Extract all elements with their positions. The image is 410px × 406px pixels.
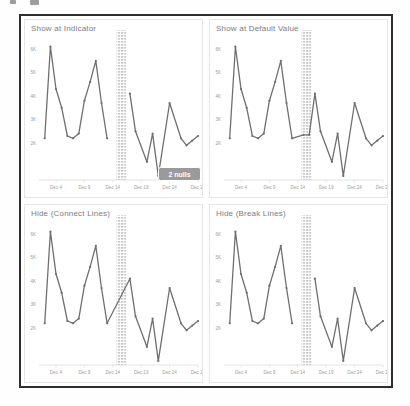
data-point: [100, 102, 102, 104]
data-point: [274, 266, 276, 268]
chart-show-at-indicator[interactable]: Dec 4Dec 9Dec 14Dec 19Dec 24Dec 296K5K4K…: [25, 20, 202, 197]
data-point: [234, 231, 236, 233]
data-point: [106, 137, 108, 139]
y-tick-label: 4K: [30, 94, 37, 99]
chart-hide-break-lines[interactable]: Dec 4Dec 9Dec 14Dec 19Dec 24Dec 296K5K4K…: [210, 205, 387, 382]
x-tick-label: Dec 14: [106, 185, 121, 190]
x-tick-label: Dec 14: [291, 185, 306, 190]
series-line: [130, 94, 198, 176]
data-point: [263, 133, 265, 135]
data-point: [169, 102, 171, 104]
data-point: [169, 287, 171, 289]
x-tick-label: Dec 4: [50, 370, 62, 375]
data-point: [280, 245, 282, 247]
data-point: [186, 329, 188, 331]
data-point: [354, 287, 356, 289]
y-tick-label: 2K: [30, 141, 37, 146]
panel-title: Show at Indicator: [31, 24, 96, 33]
y-tick-label: 6K: [30, 47, 37, 52]
data-point: [382, 320, 384, 322]
x-tick-label: Dec 9: [263, 185, 275, 190]
null-region-band: [117, 30, 127, 180]
x-tick-label: Dec 29: [376, 370, 387, 375]
chart-hide-connect-lines[interactable]: Dec 4Dec 9Dec 14Dec 19Dec 24Dec 296K5K4K…: [25, 205, 202, 382]
page-text-fragment: [30, 0, 39, 5]
data-point: [354, 102, 356, 104]
data-point: [251, 320, 253, 322]
y-tick-label: 2K: [215, 326, 222, 331]
x-tick-label: Dec 19: [319, 370, 334, 375]
data-point: [72, 137, 74, 139]
data-point: [302, 134, 304, 136]
data-point: [157, 360, 159, 362]
y-tick-label: 5K: [30, 70, 37, 75]
data-point: [376, 140, 378, 142]
chart-show-at-default-value[interactable]: Dec 4Dec 9Dec 14Dec 19Dec 24Dec 296K5K4K…: [210, 20, 387, 197]
data-point: [186, 144, 188, 146]
data-point: [61, 292, 63, 294]
data-point: [234, 46, 236, 48]
data-point: [89, 266, 91, 268]
data-point: [268, 100, 270, 102]
data-point: [257, 137, 259, 139]
series-line: [315, 279, 383, 361]
data-point: [197, 135, 199, 137]
data-point: [55, 273, 57, 275]
data-point: [191, 325, 193, 327]
data-point: [72, 322, 74, 324]
data-point: [66, 135, 68, 137]
badge-label[interactable]: 2 nulls: [168, 171, 190, 178]
panel-show-at-indicator: Show at Indicator Dec 4Dec 9Dec 14Dec 19…: [24, 19, 203, 198]
data-point: [129, 93, 131, 95]
data-point: [314, 93, 316, 95]
x-tick-label: Dec 19: [134, 185, 149, 190]
data-point: [291, 322, 293, 324]
data-point: [95, 60, 97, 62]
x-tick-label: Dec 19: [134, 370, 149, 375]
page-text-fragment: [10, 0, 16, 4]
x-tick-label: Dec 24: [347, 185, 362, 190]
data-point: [246, 292, 248, 294]
x-tick-label: Dec 24: [162, 370, 177, 375]
panel-hide-connect-lines: Hide (Connect Lines) Dec 4Dec 9Dec 14Dec…: [24, 204, 203, 383]
data-point: [371, 329, 373, 331]
data-point: [246, 107, 248, 109]
data-point: [134, 130, 136, 132]
panel-title: Show at Default Value: [216, 24, 299, 33]
x-tick-label: Dec 24: [162, 185, 177, 190]
data-point: [229, 137, 231, 139]
data-point: [55, 88, 57, 90]
y-tick-label: 4K: [215, 94, 222, 99]
x-tick-label: Dec 4: [235, 185, 247, 190]
data-point: [240, 273, 242, 275]
null-region-band: [302, 30, 312, 180]
y-tick-label: 3K: [30, 302, 37, 307]
data-point: [197, 320, 199, 322]
data-point: [134, 315, 136, 317]
x-tick-label: Dec 29: [191, 370, 202, 375]
x-tick-label: Dec 24: [347, 370, 362, 375]
x-tick-label: Dec 9: [78, 185, 90, 190]
null-region-band: [302, 215, 312, 365]
data-point: [191, 140, 193, 142]
data-point: [268, 285, 270, 287]
data-point: [342, 175, 344, 177]
y-tick-label: 5K: [215, 255, 222, 260]
data-point: [274, 81, 276, 83]
x-tick-label: Dec 29: [376, 185, 387, 190]
panel-title: Hide (Connect Lines): [31, 209, 110, 218]
y-tick-label: 5K: [215, 70, 222, 75]
data-point: [331, 161, 333, 163]
data-point: [100, 287, 102, 289]
page: { "page": { "background": "#fefefe" }, "…: [0, 0, 410, 406]
data-point: [365, 322, 367, 324]
data-point: [78, 133, 80, 135]
data-point: [263, 318, 265, 320]
y-tick-label: 3K: [30, 117, 37, 122]
data-point: [106, 322, 108, 324]
data-point: [78, 318, 80, 320]
data-point: [314, 278, 316, 280]
x-tick-label: Dec 9: [78, 370, 90, 375]
data-point: [83, 100, 85, 102]
null-indicator-badge[interactable]: 2 nulls: [159, 168, 201, 181]
